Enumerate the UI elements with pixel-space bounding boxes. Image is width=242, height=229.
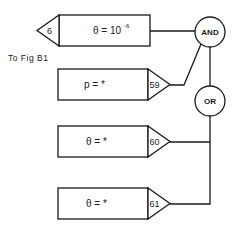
block-59-id: 59 [150, 80, 160, 90]
block-61: θ = * 61 [58, 188, 170, 219]
block-61-id: 61 [150, 199, 160, 209]
and-gate-label: AND [201, 28, 219, 37]
block-59-expression: p = * [84, 79, 105, 90]
block-6-expression: θ = 10 [93, 25, 122, 36]
fault-tree-diagram: 6 θ = 10 -6 AND To Fig B1 p = * 59 OR θ … [0, 0, 242, 229]
block-6-exponent: -6 [124, 23, 130, 29]
note-to-fig-b1: To Fig B1 [8, 53, 48, 63]
block-60-expression: θ = * [86, 136, 107, 147]
block-61-expression: θ = * [86, 198, 107, 209]
block-6-id: 6 [47, 26, 52, 36]
or-gate-label: OR [204, 97, 216, 106]
connector-61-to-or [170, 116, 210, 204]
block-60: θ = * 60 [58, 126, 170, 157]
block-6: 6 θ = 10 -6 [37, 15, 150, 46]
connector-59-to-and [170, 44, 201, 85]
block-59: p = * 59 [58, 69, 170, 100]
block-60-id: 60 [150, 137, 160, 147]
and-gate: AND [195, 17, 225, 47]
or-gate: OR [195, 86, 225, 116]
